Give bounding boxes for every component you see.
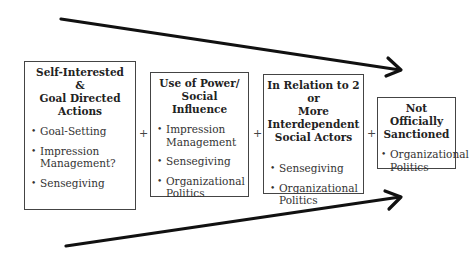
box-interdependent-actors: In Relation to 2 or More Interdependent … — [263, 74, 364, 194]
plus-operator: + — [139, 127, 148, 140]
box-not-officially-sanctioned: Not Officially Sanctioned Organizational… — [377, 97, 456, 169]
list-item: Impression Management — [157, 123, 242, 148]
plus-operator: + — [367, 127, 376, 140]
box-self-interested: Self-Interested & Goal Directed Actions … — [24, 61, 136, 210]
title-line: Social Actors — [267, 131, 360, 144]
box-title: Self-Interested & Goal Directed Actions — [31, 66, 129, 118]
list-item: Goal-Setting — [31, 125, 129, 138]
box-title: In Relation to 2 or More Interdependent … — [267, 79, 360, 144]
list-item: Sensegiving — [270, 162, 360, 175]
title-line: Goal Directed Actions — [31, 92, 129, 118]
title-line: Not Officially — [381, 102, 452, 128]
item-list: Impression Management Sensegiving Organi… — [157, 123, 242, 200]
list-item: Organizational Politics — [157, 175, 242, 200]
title-line: Social Influence — [157, 90, 242, 116]
list-item: Sensegiving — [157, 155, 242, 168]
title-line: More Interdependent — [267, 105, 360, 131]
title-line: Sanctioned — [381, 128, 452, 141]
box-use-of-power: Use of Power/ Social Influence Impressio… — [150, 72, 249, 197]
item-list: Sensegiving Organizational Politics — [267, 162, 360, 207]
title-line: In Relation to 2 or — [267, 79, 360, 105]
title-line: Use of Power/ — [157, 77, 242, 90]
item-list: Organizational Politics — [381, 148, 452, 173]
list-item: Impression Management? — [31, 145, 129, 170]
box-title: Not Officially Sanctioned — [381, 102, 452, 141]
plus-operator: + — [253, 127, 262, 140]
item-list: Goal-Setting Impression Management? Sens… — [31, 125, 129, 189]
list-item: Sensegiving — [31, 177, 129, 190]
box-title: Use of Power/ Social Influence — [157, 77, 242, 116]
list-item: Organizational Politics — [381, 148, 452, 173]
title-line: Self-Interested & — [31, 66, 129, 92]
list-item: Organizational Politics — [270, 182, 360, 207]
